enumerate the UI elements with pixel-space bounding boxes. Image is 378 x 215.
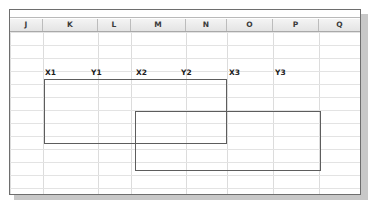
cell-label-y1[interactable]: Y1 bbox=[91, 68, 102, 78]
column-header-k[interactable]: K bbox=[43, 19, 98, 31]
column-header-row: JKLMNOPQ bbox=[10, 19, 360, 32]
cell-label-x2[interactable]: X2 bbox=[136, 68, 147, 78]
grid-row-line bbox=[10, 175, 360, 176]
rectangle-3[interactable] bbox=[135, 111, 321, 171]
column-header-p[interactable]: P bbox=[273, 19, 319, 31]
cell-label-x1[interactable]: X1 bbox=[45, 68, 56, 78]
screenshot-root: JKLMNOPQ X1Y1X2Y2X3Y3 bbox=[0, 0, 378, 215]
grid-row-line bbox=[10, 45, 360, 46]
column-header-o[interactable]: O bbox=[227, 19, 273, 31]
cell-label-y3[interactable]: Y3 bbox=[275, 68, 286, 78]
column-header-j[interactable]: J bbox=[10, 19, 43, 31]
grid-column-line bbox=[10, 32, 11, 194]
spreadsheet-window: JKLMNOPQ X1Y1X2Y2X3Y3 bbox=[9, 9, 361, 195]
grid-row-line bbox=[10, 32, 360, 33]
column-header-m[interactable]: M bbox=[131, 19, 186, 31]
column-header-l[interactable]: L bbox=[98, 19, 131, 31]
spreadsheet-grid[interactable]: X1Y1X2Y2X3Y3 bbox=[10, 32, 360, 194]
formula-bar-strip bbox=[10, 10, 360, 18]
column-header-n[interactable]: N bbox=[186, 19, 227, 31]
cell-label-x3[interactable]: X3 bbox=[229, 68, 240, 78]
grid-row-line bbox=[10, 58, 360, 59]
cell-label-y2[interactable]: Y2 bbox=[181, 68, 192, 78]
column-header-q[interactable]: Q bbox=[319, 19, 361, 31]
grid-row-line bbox=[10, 188, 360, 189]
